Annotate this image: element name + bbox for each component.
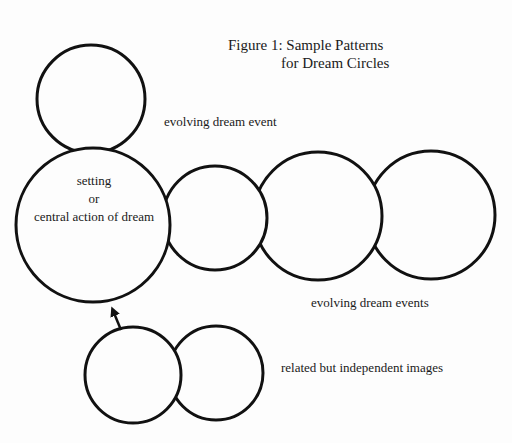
chain-circle-1 [163,166,267,270]
central-circle-label: setting or central action of dream [20,172,168,226]
dream-circles-figure: Figure 1: Sample Patterns for Dream Circ… [0,0,512,443]
top-event-circle [37,45,145,153]
evolving-event-label: evolving dream event [164,114,277,130]
chain-circle-2 [254,152,382,280]
chain-circle-3 [367,151,495,279]
center-line-central-action: central action of dream [20,208,168,226]
center-line-or: or [20,190,168,208]
related-images-label: related but independent images [281,360,443,376]
arrow-icon [114,313,121,330]
figure-title-line1: Figure 1: Sample Patterns [228,37,383,53]
related-circle-1 [85,327,181,423]
figure-title: Figure 1: Sample Patterns for Dream Circ… [228,36,389,72]
evolving-events-label: evolving dream events [311,295,429,311]
figure-title-line2: for Dream Circles [228,54,389,72]
center-line-setting: setting [20,172,168,190]
related-circle-2 [169,326,263,420]
